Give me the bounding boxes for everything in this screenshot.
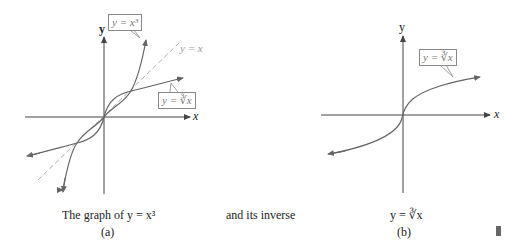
identity-label: y = x (180, 42, 203, 54)
caption-right-tag: (b) (397, 225, 411, 240)
right-callout-pointer (440, 65, 453, 77)
right-graph (321, 36, 490, 193)
cubic-label-box: y = x³ (108, 14, 142, 31)
left-x-axis-label: x (193, 109, 198, 124)
left-y-axis-label: y (99, 22, 105, 37)
end-of-figure-mark (496, 226, 501, 236)
caption-middle: and its inverse (226, 208, 295, 223)
caption-left: The graph of y = x³ (62, 208, 155, 223)
caption-left-tag: (a) (101, 225, 114, 240)
left-graph (25, 30, 190, 194)
cubic-callout-pointer (130, 30, 140, 38)
right-y-axis-label: y (399, 20, 405, 35)
caption-right: y = ∛x (390, 208, 422, 223)
cuberoot-callout-pointer (170, 83, 178, 92)
cuberoot-label-box-left: y = ∛x (158, 92, 196, 109)
identity-line (38, 42, 180, 180)
cuberoot-label-box-right: y = ∛x (419, 49, 457, 66)
right-x-axis-label: x (494, 107, 499, 122)
